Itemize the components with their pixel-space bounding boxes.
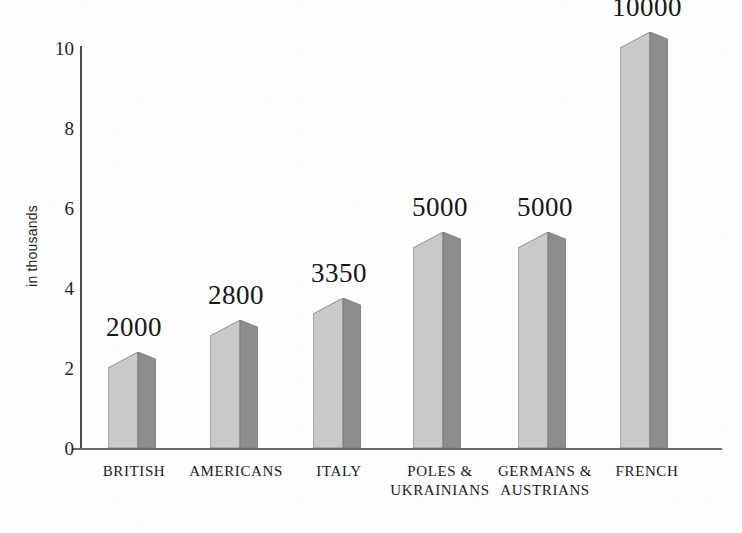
chart-canvas: in thousands 1086420 2000BRITISH2800AMER… [0, 0, 742, 533]
bar-germans-austrians [518, 232, 566, 448]
bar-front-face [413, 232, 443, 448]
bar-value-label: 10000 [577, 0, 717, 21]
bar-front-face [518, 232, 548, 448]
bar-side-face [343, 298, 361, 448]
bar-front-face [620, 32, 650, 448]
bar-americans [210, 320, 258, 448]
category-label: FRENCH [567, 462, 727, 481]
category-label-line: AUSTRIANS [465, 481, 625, 500]
bar-side-face [443, 232, 461, 448]
bar-value-label: 5000 [475, 194, 615, 221]
bar-french [620, 32, 668, 448]
bar-value-label: 2000 [64, 314, 204, 341]
bar-side-face [240, 320, 258, 448]
bar-front-face [108, 352, 138, 448]
bar-front-face [210, 320, 240, 448]
plot-area: 2000BRITISH2800AMERICANS3350ITALY5000POL… [0, 0, 742, 533]
bar-value-label: 3350 [269, 260, 409, 287]
bar-front-face [313, 298, 343, 448]
bar-poles-ukrainians [413, 232, 461, 448]
category-label-line: FRENCH [567, 462, 727, 481]
bar-italy [313, 298, 361, 448]
bar-side-face [650, 32, 668, 448]
bar-side-face [138, 352, 156, 448]
bar-side-face [548, 232, 566, 448]
bar-british [108, 352, 156, 448]
